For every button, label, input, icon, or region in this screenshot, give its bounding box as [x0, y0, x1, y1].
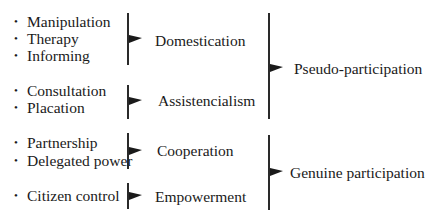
list-item-citizen-control: •Citizen control: [13, 187, 120, 206]
item-label: Consultation: [27, 82, 106, 99]
list-item-informing: •Informing: [13, 47, 90, 66]
bullet-icon: •: [13, 47, 27, 64]
category-domestication: Domestication: [155, 32, 245, 49]
bullet-icon: •: [13, 82, 27, 99]
arrow-right-icon: [129, 147, 142, 155]
category-empowerment: Empowerment: [155, 188, 246, 205]
bullet-icon: •: [13, 13, 27, 30]
item-label: Citizen control: [27, 187, 120, 204]
bullet-icon: •: [13, 152, 27, 169]
bullet-icon: •: [13, 134, 27, 151]
bullet-icon: •: [13, 99, 27, 116]
arrow-right-icon: [129, 35, 142, 43]
list-item-placation: •Placation: [13, 99, 85, 118]
list-item-delegated-power: •Delegated power: [13, 152, 132, 171]
super-category-genuine-participation: Genuine participation: [290, 164, 425, 181]
bullet-icon: •: [13, 30, 27, 47]
item-label: Delegated power: [27, 152, 132, 169]
item-label: Placation: [27, 99, 85, 116]
arrow-right-icon: [270, 168, 283, 176]
item-label: Therapy: [27, 30, 79, 47]
arrow-right-icon: [129, 192, 142, 200]
bullet-icon: •: [13, 187, 27, 204]
category-cooperation: Cooperation: [157, 142, 234, 159]
item-label: Informing: [27, 47, 90, 64]
arrow-right-icon: [270, 64, 283, 72]
arrow-right-icon: [129, 97, 142, 105]
item-label: Manipulation: [27, 13, 111, 30]
item-label: Partnership: [27, 134, 98, 151]
participation-ladder-diagram: •Manipulation •Therapy •Informing Domest…: [0, 0, 431, 223]
list-item-partnership: •Partnership: [13, 134, 98, 153]
category-assistencialism: Assistencialism: [158, 92, 255, 109]
super-category-pseudo-participation: Pseudo-participation: [294, 60, 422, 77]
